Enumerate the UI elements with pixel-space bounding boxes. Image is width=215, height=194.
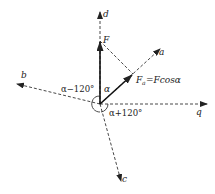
arc-alpha-minus-120 [92,96,100,102]
label-F: F [102,35,110,45]
projection-line [100,41,133,74]
label-c: c [122,174,127,184]
label-q: q [196,107,202,117]
label-alpha-minus-120: α−120° [61,84,94,94]
label-d: d [103,9,109,19]
label-alpha: α [104,84,110,94]
vector-diagram: d F a q b c α α−120° α+120° F a =Fcosα [0,0,215,194]
label-a: a [159,47,164,57]
label-Fa: F a =Fcosα [135,75,181,86]
label-b: b [21,70,27,80]
label-alpha-plus-120: α+120° [109,108,142,118]
label-Fa-equation: =Fcosα [146,75,181,85]
